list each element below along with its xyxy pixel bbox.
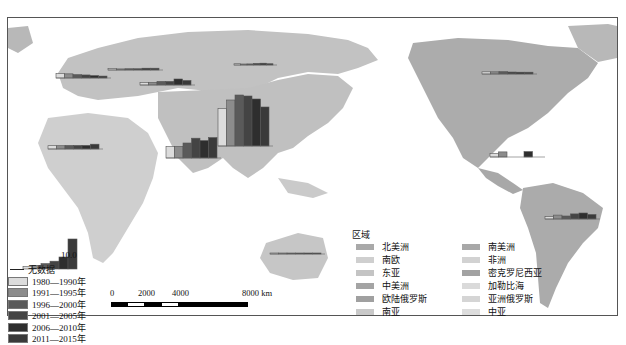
landmass-north-america [408,38,598,168]
region-swatch [462,283,480,289]
period-legend: 无数据 1980—1990年 1991—1995年 1996—2000年 200… [8,264,86,345]
bar [65,74,74,78]
bar [209,138,218,158]
bar [244,96,253,146]
legend-swatch [8,323,28,332]
bar [166,147,175,158]
region-item: 东亚 [356,266,427,279]
scale-segment [178,302,248,307]
reference-value-label: 10.0 [61,250,77,260]
scale-segment [144,302,162,307]
bar [571,214,580,219]
bar [166,81,175,85]
region-swatch [356,270,374,276]
bar [499,72,508,74]
bar [82,145,91,149]
region-label: 中亚 [488,305,506,318]
scale-segment [162,302,178,307]
region-item: 南美洲 [462,240,542,253]
region-label: 非洲 [488,253,506,266]
bar [183,143,192,158]
bar [588,215,597,220]
legend-swatch [8,288,28,297]
legend-label: 2011—2015年 [32,332,86,345]
region-label: 亚洲俄罗斯 [488,292,533,305]
bar [235,95,244,146]
legend-swatch [8,311,28,320]
region-legend-left-column: 北美洲 南欧 东亚 中美洲 欧陆俄罗斯 南亚 [356,240,427,318]
no-data-line-icon [10,269,24,270]
region-swatch [462,270,480,276]
region-swatch [356,283,374,289]
region-item: 加勒比海 [462,279,542,292]
bar [174,79,183,85]
bar [183,81,192,86]
bar [490,153,499,157]
bar [261,107,270,146]
inset-bar-chart [270,253,325,254]
scale-label-0: 0 [110,288,114,298]
region-swatch [356,309,374,315]
bar [491,72,500,74]
region-item: 密克罗尼西亚 [462,266,542,279]
region-label: 北美洲 [382,240,409,253]
region-item: 亚洲俄罗斯 [462,292,542,305]
landmass-australia [260,233,328,280]
bar [149,82,158,85]
inset-bar-chart [234,63,277,65]
bar [90,76,99,78]
legend-swatch [8,334,28,343]
bar [200,141,209,158]
legend-swatch [8,300,28,309]
bar [56,74,65,78]
region-legend-right-column: 南美洲 非洲 密克罗尼西亚 加勒比海 亚洲俄罗斯 中亚 [462,240,542,318]
bar [218,109,227,147]
bar [48,146,57,149]
bar [579,213,588,219]
scale-segment [128,302,144,307]
bar [91,144,100,149]
inset-bar-chart [482,72,537,74]
region-swatch [462,296,480,302]
bar [252,99,261,146]
legend-item-period-6: 2011—2015年 [8,333,86,345]
bar [175,146,184,158]
bar [562,216,571,219]
bar [57,146,66,149]
bar [157,81,166,85]
bar [73,75,82,78]
region-swatch [356,257,374,263]
bar [499,152,508,157]
region-label: 欧陆俄罗斯 [382,292,427,305]
region-swatch [462,257,480,263]
region-label: 加勒比海 [488,279,524,292]
landmass-sea-islands [278,178,328,198]
region-item: 中亚 [462,305,542,318]
landmass-greenland-left [8,26,33,53]
region-item: 北美洲 [356,240,427,253]
scale-segment [111,302,128,307]
bar [554,215,563,219]
region-item: 南亚 [356,305,427,318]
scale-label-8000: 8000 km [242,288,272,298]
region-label: 密克罗尼西亚 [488,266,542,279]
inset-bar-chart [108,68,163,70]
region-label: 东亚 [382,266,400,279]
region-item: 南欧 [356,253,427,266]
landmass-central-america [478,168,523,194]
region-item: 非洲 [462,253,542,266]
scale-label-2000: 2000 [138,288,155,298]
region-item: 中美洲 [356,279,427,292]
region-swatch [356,296,374,302]
bar [482,72,491,74]
bar [74,145,83,149]
bar [65,145,74,149]
bar [227,100,236,146]
bar [82,75,91,78]
bar [524,152,533,157]
region-swatch [462,244,480,250]
legend-swatch [8,277,28,286]
region-swatch [356,244,374,250]
landmass-africa [38,113,158,263]
region-item: 欧陆俄罗斯 [356,292,427,305]
